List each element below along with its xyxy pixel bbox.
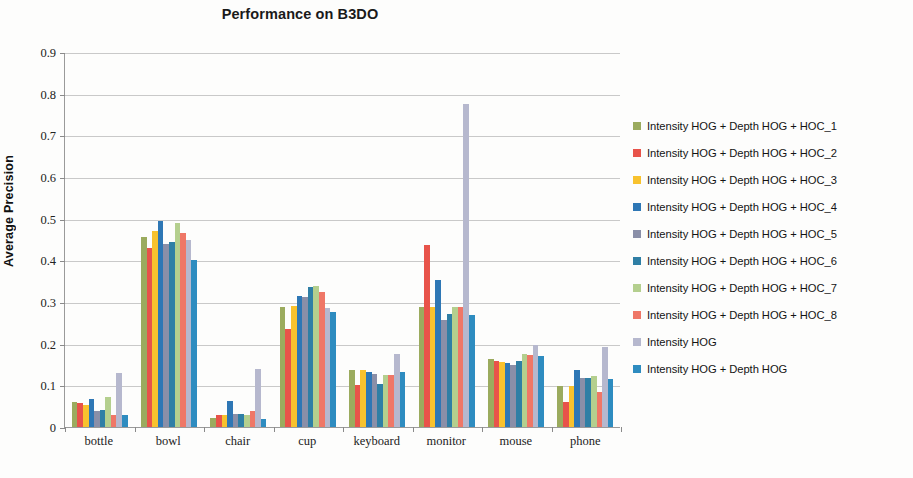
legend-item[interactable]: Intensity HOG + Depth HOG + HOC_2	[633, 139, 908, 166]
x-tick-label-monitor: monitor	[412, 434, 482, 449]
legend-label: Intensity HOG + Depth HOG + HOC_2	[647, 147, 837, 159]
legend-label: Intensity HOG + Depth HOG + HOC_1	[647, 120, 837, 132]
legend-label: Intensity HOG + Depth HOG + HOC_4	[647, 201, 837, 213]
x-tick-mark	[413, 427, 414, 432]
x-tick-label-keyboard: keyboard	[342, 434, 412, 449]
x-tick-mark	[343, 427, 344, 432]
legend-item[interactable]: Intensity HOG	[633, 328, 908, 355]
y-tick-label: 0.8	[40, 87, 56, 102]
legend-item[interactable]: Intensity HOG + Depth HOG + HOC_8	[633, 301, 908, 328]
plot-area: 0.90.80.70.60.50.40.30.20.10	[64, 53, 620, 428]
legend-label: Intensity HOG + Depth HOG + HOC_5	[647, 228, 837, 240]
x-tick-mark	[552, 427, 553, 432]
x-tick-label-phone: phone	[551, 434, 621, 449]
x-tick-mark	[621, 427, 622, 432]
y-tick-label: 0.4	[40, 254, 56, 269]
y-tick-label: 0.5	[40, 212, 56, 227]
bar[interactable]	[191, 260, 197, 428]
bar[interactable]	[330, 312, 336, 427]
bar-group-monitor	[412, 53, 481, 427]
legend-item[interactable]: Intensity HOG + Depth HOG + HOC_6	[633, 247, 908, 274]
legend-swatch-icon	[633, 149, 641, 157]
x-tick-label-cup: cup	[273, 434, 343, 449]
y-tick-label: 0.7	[40, 129, 56, 144]
legend-item[interactable]: Intensity HOG + Depth HOG + HOC_5	[633, 220, 908, 247]
legend-label: Intensity HOG + Depth HOG	[647, 363, 787, 375]
bar-group-cup	[273, 53, 342, 427]
bar[interactable]	[261, 419, 267, 427]
bar[interactable]	[400, 372, 406, 427]
bar-group-bottle	[65, 53, 134, 427]
x-tick-label-chair: chair	[203, 434, 273, 449]
legend-swatch-icon	[633, 338, 641, 346]
legend-swatch-icon	[633, 176, 641, 184]
legend-label: Intensity HOG + Depth HOG + HOC_6	[647, 255, 837, 267]
legend-label: Intensity HOG + Depth HOG + HOC_3	[647, 174, 837, 186]
bar-group-phone	[551, 53, 620, 427]
legend-item[interactable]: Intensity HOG + Depth HOG + HOC_1	[633, 112, 908, 139]
bar-group-mouse	[481, 53, 550, 427]
legend-swatch-icon	[633, 257, 641, 265]
legend-swatch-icon	[633, 365, 641, 373]
legend-item[interactable]: Intensity HOG + Depth HOG	[633, 355, 908, 382]
x-tick-mark	[135, 427, 136, 432]
y-tick-label: 0.6	[40, 171, 56, 186]
legend-label: Intensity HOG + Depth HOG + HOC_8	[647, 309, 837, 321]
x-tick-mark	[482, 427, 483, 432]
y-tick-label: 0.2	[40, 337, 56, 352]
bar[interactable]	[608, 379, 614, 427]
bar-group-bowl	[134, 53, 203, 427]
bar[interactable]	[469, 315, 475, 427]
y-tick-label: 0.3	[40, 296, 56, 311]
legend-label: Intensity HOG	[647, 336, 717, 348]
x-tick-mark	[204, 427, 205, 432]
legend-swatch-icon	[633, 311, 641, 319]
x-axis-labels: bottlebowlchaircupkeyboardmonitormouseph…	[64, 434, 620, 449]
legend-item[interactable]: Intensity HOG + Depth HOG + HOC_7	[633, 274, 908, 301]
x-tick-mark	[274, 427, 275, 432]
legend-swatch-icon	[633, 203, 641, 211]
bar[interactable]	[122, 415, 128, 427]
bar-group-chair	[204, 53, 273, 427]
bar[interactable]	[538, 356, 544, 427]
legend-item[interactable]: Intensity HOG + Depth HOG + HOC_4	[633, 193, 908, 220]
y-tick-label: 0	[50, 421, 56, 436]
legend-swatch-icon	[633, 122, 641, 130]
y-axis-title: Average Precision	[2, 155, 20, 267]
legend-label: Intensity HOG + Depth HOG + HOC_7	[647, 282, 837, 294]
chart-title: Performance on B3DO	[0, 6, 600, 22]
legend-swatch-icon	[633, 284, 641, 292]
y-tick-label: 0.9	[40, 46, 56, 61]
x-tick-label-bowl: bowl	[134, 434, 204, 449]
x-tick-label-mouse: mouse	[481, 434, 551, 449]
bar-group-keyboard	[343, 53, 412, 427]
x-tick-label-bottle: bottle	[64, 434, 134, 449]
bars-layer	[65, 53, 620, 427]
chart-legend: Intensity HOG + Depth HOG + HOC_1Intensi…	[633, 112, 908, 382]
x-tick-mark	[65, 427, 66, 432]
chart-page: Performance on B3DO Average Precision 0.…	[0, 0, 913, 478]
y-tick-label: 0.1	[40, 379, 56, 394]
legend-swatch-icon	[633, 230, 641, 238]
legend-item[interactable]: Intensity HOG + Depth HOG + HOC_3	[633, 166, 908, 193]
